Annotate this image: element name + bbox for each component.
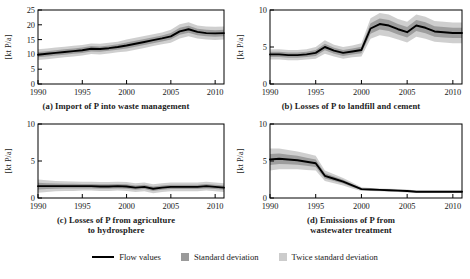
chart-c: 051019901995200020052010[kt P/a] [0, 116, 232, 214]
y-axis-label-b: [kt P/a] [236, 34, 245, 59]
subplot-c-caption-line1: (c) Losses of P from agriculture [0, 215, 232, 225]
subplot-d-caption: (d) Emissions of P from wastewater treat… [232, 215, 470, 235]
x-tick-label-c: 2010 [207, 202, 224, 211]
y-tick-label-a: 10 [27, 50, 35, 59]
x-tick-label-d: 2000 [353, 202, 370, 211]
figure-panel-grid: 051015202519901995200020052010[kt P/a] (… [0, 0, 470, 279]
standard-deviation-swatch-icon [181, 253, 189, 261]
legend-item-twice-standard-deviation: Twice standard deviation [279, 252, 378, 262]
x-tick-label-b: 1990 [262, 88, 279, 97]
x-tick-label-d: 2010 [444, 202, 461, 211]
y-axis-label-a: [kt P/a] [4, 34, 13, 59]
subplot-d-caption-line2: wastewater treatment [232, 225, 470, 235]
y-tick-label-a: 20 [27, 21, 35, 30]
subplot-d-caption-line1: (d) Emissions of P from [232, 215, 470, 225]
subplot-b: 051019901995200020052010[kt P/a] (b) Los… [232, 2, 470, 114]
y-tick-label-b: 10 [259, 6, 267, 15]
x-tick-label-a: 2005 [162, 88, 179, 97]
plot-area-b: 051019901995200020052010[kt P/a] [232, 2, 470, 100]
plot-area-c: 051019901995200020052010[kt P/a] [0, 116, 232, 214]
y-tick-label-c: 5 [31, 157, 35, 166]
x-tick-label-c: 1995 [74, 202, 91, 211]
twice-standard-deviation-swatch-icon [279, 253, 287, 261]
x-tick-label-a: 2000 [118, 88, 135, 97]
x-tick-label-a: 1990 [30, 88, 47, 97]
legend-item-standard-deviation: Standard deviation [181, 252, 259, 262]
plot-area-d: 051019901995200020052010[kt P/a] [232, 116, 470, 214]
legend-label-flow-values: Flow values [119, 252, 161, 262]
twice-standard-deviation-band-d [270, 148, 462, 192]
x-tick-label-c: 2005 [162, 202, 179, 211]
legend-label-standard-deviation: Standard deviation [194, 252, 259, 262]
y-tick-label-c: 10 [27, 120, 35, 129]
x-tick-label-a: 2010 [207, 88, 224, 97]
x-tick-label-d: 1995 [307, 202, 324, 211]
x-tick-label-b: 2000 [353, 88, 370, 97]
y-axis-label-d: [kt P/a] [236, 148, 245, 173]
figure-legend: Flow values Standard deviation Twice sta… [0, 246, 470, 268]
x-tick-label-c: 2000 [118, 202, 135, 211]
x-tick-label-d: 1990 [262, 202, 279, 211]
subplot-a-caption: (a) Import of P into waste management [0, 101, 232, 111]
y-tick-label-a: 15 [27, 36, 35, 45]
subplot-c: 051019901995200020052010[kt P/a] (c) Los… [0, 116, 232, 244]
subplot-b-caption: (b) Losses of P to landfill and cement [232, 101, 470, 111]
y-axis-label-c: [kt P/a] [4, 148, 13, 173]
legend-label-twice-standard-deviation: Twice standard deviation [292, 252, 378, 262]
x-tick-label-a: 1995 [74, 88, 91, 97]
subplot-a: 051015202519901995200020052010[kt P/a] (… [0, 2, 232, 114]
y-tick-label-a: 25 [27, 6, 35, 15]
plot-area-a: 051015202519901995200020052010[kt P/a] [0, 2, 232, 100]
y-tick-label-d: 10 [259, 120, 267, 129]
subplot-c-caption: (c) Losses of P from agriculture to hydr… [0, 215, 232, 235]
flow-values-line-icon [92, 256, 114, 258]
standard-deviation-band-d [270, 154, 462, 193]
x-tick-label-c: 1990 [30, 202, 47, 211]
legend-item-flow-values: Flow values [92, 252, 161, 262]
x-tick-label-b: 1995 [307, 88, 324, 97]
y-tick-label-d: 5 [263, 157, 267, 166]
x-tick-label-b: 2005 [399, 88, 416, 97]
chart-a: 051015202519901995200020052010[kt P/a] [0, 2, 232, 100]
y-tick-label-a: 5 [31, 65, 35, 74]
chart-d: 051019901995200020052010[kt P/a] [232, 116, 470, 214]
subplot-d: 051019901995200020052010[kt P/a] (d) Emi… [232, 116, 470, 244]
x-tick-label-b: 2010 [444, 88, 461, 97]
x-tick-label-d: 2005 [399, 202, 416, 211]
y-tick-label-b: 5 [263, 43, 267, 52]
subplot-c-caption-line2: to hydrosphere [0, 225, 232, 235]
chart-b: 051019901995200020052010[kt P/a] [232, 2, 470, 100]
